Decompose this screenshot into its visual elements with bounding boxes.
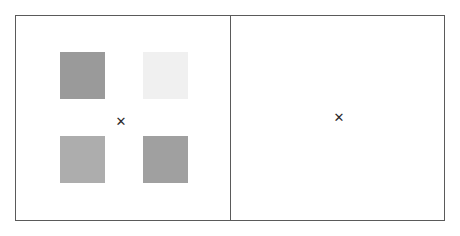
square-top-left[interactable]: [60, 52, 105, 99]
stimulus-display: ✕ ✕: [0, 0, 460, 236]
square-bottom-right[interactable]: [143, 136, 188, 183]
fixation-cross-icon: ✕: [331, 111, 347, 125]
square-top-right[interactable]: [143, 52, 188, 99]
square-bottom-left[interactable]: [60, 136, 105, 183]
fixation-cross-icon: ✕: [113, 115, 129, 129]
